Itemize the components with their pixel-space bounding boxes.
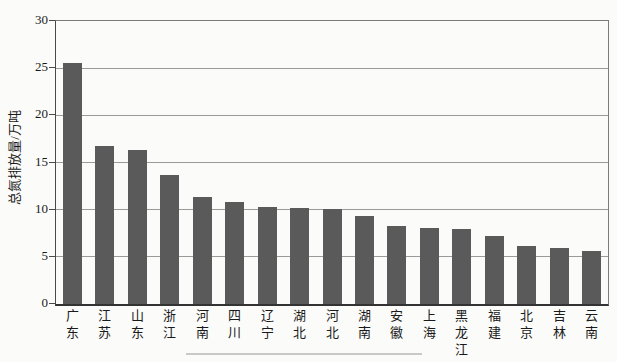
y-tick-label-10: 10 [12, 201, 48, 217]
x-tick-label-江苏: 江苏 [95, 309, 113, 343]
x-tick-label-黑龙江: 黑龙江 [452, 309, 470, 360]
bar-河南 [193, 197, 212, 304]
x-tick-label-河北: 河北 [322, 309, 340, 343]
x-tick-label-浙江: 浙江 [160, 309, 178, 343]
bar-云南 [582, 251, 601, 304]
bar-上海 [420, 228, 439, 304]
bar-北京 [517, 246, 536, 304]
x-tick-label-吉林: 吉林 [549, 309, 567, 343]
y-tick-label-5: 5 [12, 248, 48, 264]
x-tick-label-北京: 北京 [517, 309, 535, 343]
bar-浙江 [160, 175, 179, 304]
bar-安徽 [387, 226, 406, 304]
x-tick-label-山东: 山东 [127, 309, 145, 343]
x-tick-label-云南: 云南 [582, 309, 600, 343]
bar-山东 [128, 150, 147, 304]
y-tick-label-0: 0 [12, 295, 48, 311]
y-tick-label-15: 15 [12, 154, 48, 170]
bar-湖南 [355, 216, 374, 304]
y-tick-label-30: 30 [12, 12, 48, 28]
gridline-25 [56, 68, 608, 69]
scan-artifact-line [186, 353, 422, 355]
x-tick-label-上海: 上海 [419, 309, 437, 343]
x-tick-label-广东: 广东 [62, 309, 80, 343]
y-tick-label-20: 20 [12, 106, 48, 122]
x-tick-label-辽宁: 辽宁 [257, 309, 275, 343]
bar-辽宁 [258, 207, 277, 304]
x-tick-label-河南: 河南 [192, 309, 210, 343]
scanned-bar-chart-page: 总氮排放量/万吨 051015202530 广东江苏山东浙江河南四川辽宁湖北河北… [0, 0, 617, 362]
bar-黑龙江 [452, 229, 471, 304]
x-tick-label-福建: 福建 [484, 309, 502, 343]
x-tick-label-湖北: 湖北 [290, 309, 308, 343]
bar-chart-figure: 总氮排放量/万吨 051015202530 广东江苏山东浙江河南四川辽宁湖北河北… [0, 0, 617, 362]
bar-吉林 [550, 248, 569, 304]
plot-area [55, 20, 609, 306]
x-tick-label-四川: 四川 [225, 309, 243, 343]
x-tick-label-安徽: 安徽 [387, 309, 405, 343]
bar-广东 [63, 63, 82, 304]
bar-四川 [225, 202, 244, 304]
bar-河北 [323, 209, 342, 304]
bar-江苏 [95, 146, 114, 304]
gridline-20 [56, 115, 608, 116]
y-tick-label-25: 25 [12, 59, 48, 75]
bar-湖北 [290, 208, 309, 304]
bar-福建 [485, 236, 504, 304]
x-tick-label-湖南: 湖南 [354, 309, 372, 343]
